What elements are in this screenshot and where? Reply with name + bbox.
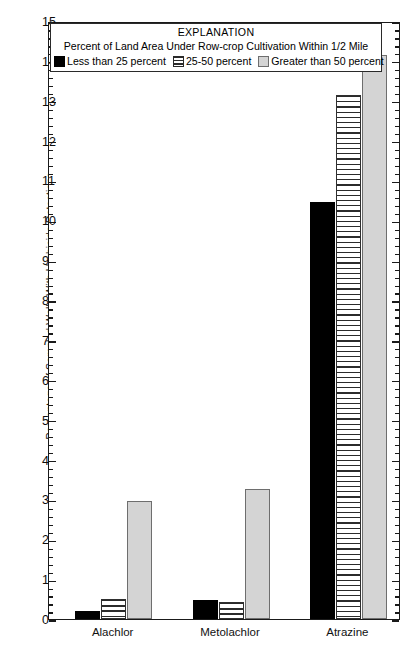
y-tick-minor-right [395, 309, 399, 310]
y-tick-minor-left [49, 557, 53, 558]
y-tick-minor-left [49, 158, 53, 159]
y-tick-minor-right [395, 397, 399, 398]
y-tick-minor-right [395, 118, 399, 119]
y-tick-minor-right [395, 166, 399, 167]
y-tick-major-right [392, 62, 399, 63]
y-tick-minor-left [49, 238, 53, 239]
y-tick-minor-left [49, 198, 53, 199]
y-tick-minor-left [49, 357, 53, 358]
legend-title: EXPLANATION [54, 26, 378, 39]
y-tick-minor-right [395, 94, 399, 95]
y-tick-minor-left [49, 78, 53, 79]
y-tick-minor-right [395, 238, 399, 239]
y-tick-minor-left [49, 413, 53, 414]
bar [219, 602, 244, 619]
y-tick-minor-left [49, 286, 53, 287]
y-tick-minor-left [49, 612, 53, 613]
y-tick-minor-left [49, 517, 53, 518]
legend-item-label: 25-50 percent [186, 54, 251, 68]
y-tick-minor-right [395, 286, 399, 287]
y-tick-minor-right [395, 174, 399, 175]
y-tick-minor-right [395, 110, 399, 111]
y-tick-minor-left [49, 118, 53, 119]
y-tick-minor-right [395, 589, 399, 590]
y-tick-minor-right [395, 349, 399, 350]
legend-subtitle: Percent of Land Area Under Row-crop Cult… [54, 39, 378, 53]
y-tick-major-right [392, 142, 399, 143]
y-tick-minor-left [49, 437, 53, 438]
y-tick-minor-right [395, 293, 399, 294]
y-tick-minor-right [395, 38, 399, 39]
y-tick-major-right [392, 620, 399, 621]
y-tick-minor-right [395, 509, 399, 510]
y-tick-minor-right [395, 405, 399, 406]
y-tick-major-right [392, 22, 399, 23]
y-tick-minor-left [49, 485, 53, 486]
y-tick-minor-left [49, 254, 53, 255]
y-tick-minor-right [395, 565, 399, 566]
y-tick-minor-left [49, 126, 53, 127]
y-tick-major-left [49, 541, 56, 542]
y-tick-major-right [392, 222, 399, 223]
y-tick-minor-left [49, 493, 53, 494]
y-tick-minor-left [49, 589, 53, 590]
y-tick-minor-right [395, 557, 399, 558]
y-tick-minor-right [395, 198, 399, 199]
y-tick-minor-right [395, 158, 399, 159]
y-tick-minor-left [49, 469, 53, 470]
y-tick-major-left [49, 581, 56, 582]
y-tick-minor-right [395, 453, 399, 454]
y-tick-minor-right [395, 270, 399, 271]
legend-swatch-icon [54, 56, 65, 67]
legend-swatch-icon [173, 56, 184, 67]
y-tick-minor-right [395, 357, 399, 358]
bar [362, 55, 387, 619]
y-tick-minor-right [395, 493, 399, 494]
legend-item-label: Greater than 50 percent [271, 54, 383, 68]
y-tick-major-right [392, 301, 399, 302]
y-tick-major-right [392, 182, 399, 183]
y-tick-minor-right [395, 230, 399, 231]
y-tick-major-left [49, 262, 56, 263]
bar [245, 489, 270, 619]
y-tick-minor-left [49, 373, 53, 374]
y-tick-major-right [392, 102, 399, 103]
y-tick-minor-left [49, 405, 53, 406]
y-tick-major-left [49, 381, 56, 382]
y-tick-minor-right [395, 429, 399, 430]
y-tick-minor-left [49, 365, 53, 366]
y-tick-minor-right [395, 533, 399, 534]
y-tick-major-left [49, 461, 56, 462]
y-tick-major-right [392, 381, 399, 382]
y-tick-minor-left [49, 246, 53, 247]
y-tick-minor-right [395, 134, 399, 135]
y-tick-minor-right [395, 469, 399, 470]
y-tick-minor-left [49, 206, 53, 207]
y-tick-minor-left [49, 110, 53, 111]
x-axis-category-label: Atrazine [326, 626, 368, 638]
y-tick-major-right [392, 461, 399, 462]
herbicide-detection-bar-chart: Percentage of Sampled Wells With Herbici… [0, 0, 418, 661]
y-tick-minor-right [395, 485, 399, 486]
x-axis-category-label: Alachlor [92, 626, 134, 638]
y-tick-major-left [49, 341, 56, 342]
y-tick-major-left [49, 501, 56, 502]
y-tick-minor-left [49, 325, 53, 326]
y-tick-minor-right [395, 517, 399, 518]
y-tick-minor-right [395, 246, 399, 247]
y-tick-minor-right [395, 86, 399, 87]
y-tick-major-right [392, 262, 399, 263]
y-tick-minor-right [395, 549, 399, 550]
y-tick-minor-right [395, 46, 399, 47]
y-tick-minor-right [395, 70, 399, 71]
x-axis-category-label: Metolachlor [200, 626, 259, 638]
y-tick-minor-right [395, 389, 399, 390]
bar [310, 202, 335, 619]
y-tick-major-right [392, 501, 399, 502]
y-tick-minor-right [395, 604, 399, 605]
y-tick-minor-left [49, 190, 53, 191]
y-tick-minor-left [49, 389, 53, 390]
y-tick-minor-right [395, 333, 399, 334]
y-tick-minor-left [49, 150, 53, 151]
y-tick-minor-right [395, 373, 399, 374]
